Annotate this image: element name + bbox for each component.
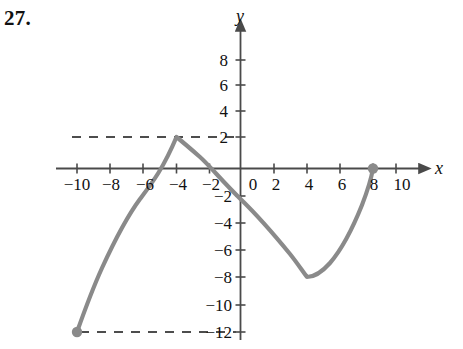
y-tick-labels: 8 6 4 2 −2 −4 −6 −8 −10 −12 — [205, 51, 232, 342]
y-axis-label: y — [234, 6, 244, 26]
x-tick-labels: −10 −8 −6 −4 −2 0 2 4 6 8 10 — [64, 175, 411, 194]
x-tick-label-neg4: −4 — [169, 175, 188, 194]
right-endpoint-dot — [368, 163, 378, 173]
x-tick-label-neg6: −6 — [136, 175, 154, 194]
y-tick-label-2: 2 — [220, 128, 229, 147]
y-tick-label-6: 6 — [220, 76, 229, 95]
y-tick-label-neg6: −6 — [214, 241, 232, 260]
graph-plot: −10 −8 −6 −4 −2 0 2 4 6 8 10 8 6 4 2 −2 … — [0, 0, 463, 349]
figure-container: 27. — [0, 0, 463, 349]
x-tick-label-neg10: −10 — [64, 175, 91, 194]
y-tick-label-4: 4 — [220, 102, 229, 121]
left-endpoint-dot — [72, 327, 82, 337]
x-axis-label: x — [434, 158, 443, 178]
x-tick-label-10: 10 — [394, 175, 411, 194]
y-tick-label-neg4: −4 — [214, 214, 233, 233]
y-tick-label-neg10: −10 — [205, 296, 232, 315]
x-tick-label-neg8: −8 — [102, 175, 120, 194]
x-tick-label-2: 2 — [272, 175, 281, 194]
y-tick-label-neg2: −2 — [214, 187, 232, 206]
x-tick-label-0: 0 — [249, 175, 258, 194]
y-tick-label-neg8: −8 — [214, 268, 232, 287]
x-tick-label-8: 8 — [370, 175, 379, 194]
x-tick-label-6: 6 — [338, 175, 347, 194]
y-tick-label-neg12: −12 — [205, 323, 232, 342]
axis-name-labels: x y — [234, 6, 443, 178]
x-tick-label-4: 4 — [305, 175, 314, 194]
y-tick-label-8: 8 — [220, 51, 229, 70]
